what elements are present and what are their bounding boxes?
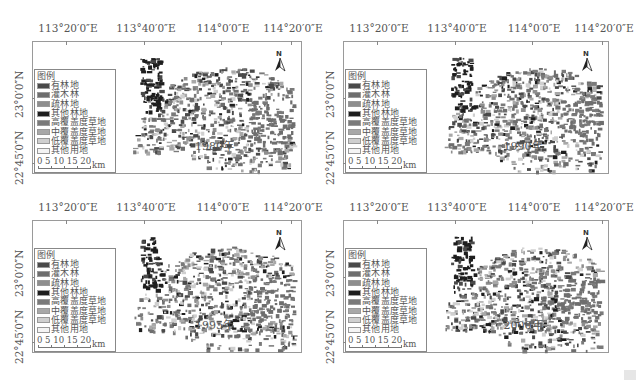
legend-swatch	[37, 299, 50, 305]
map-frame: 图例 有林地灌木林疏林地其他林地高覆盖度草地中覆盖度草地低覆盖度草地其他用地 0…	[32, 41, 302, 174]
north-arrow: N	[580, 229, 594, 251]
legend-swatch	[37, 290, 50, 296]
longitude-label: 113°40′0″E	[427, 201, 486, 213]
latitude-label: 23°0′0″N	[13, 250, 25, 297]
scale-bar: 0 5 10 15 20 km	[348, 335, 424, 350]
year-label: 1990年	[504, 137, 543, 153]
longitude-labels: 113°20′0″E 113°40′0″E 114°0′0″E 114°20′0…	[311, 22, 630, 36]
scale-numbers: 0 5 10 15 20	[37, 156, 91, 166]
legend-swatch	[348, 148, 361, 154]
legend-item: 其他用地	[37, 146, 113, 155]
map-frame: 图例 有林地灌木林疏林地其他林地高覆盖度草地中覆盖度草地低覆盖度草地其他用地 0…	[343, 41, 609, 174]
legend-swatch	[37, 101, 50, 107]
longitude-label: 113°20′0″E	[38, 22, 97, 34]
latitude-label: 22°45′0″N	[324, 310, 336, 364]
scale-bar: 0 5 10 15 20 km	[37, 335, 113, 350]
year-label: 1995年	[195, 316, 234, 332]
corner-mark	[624, 370, 636, 380]
longitude-label: 114°0′0″E	[508, 201, 561, 213]
legend-swatch	[37, 280, 50, 286]
legend-item: 其他用地	[348, 146, 424, 155]
map-legend: 图例 有林地灌木林疏林地其他林地高覆盖度草地中覆盖度草地低覆盖度草地其他用地 0…	[34, 69, 116, 173]
legend-swatch	[37, 129, 50, 135]
longitude-label: 113°40′0″E	[116, 22, 175, 34]
legend-swatch	[37, 317, 50, 323]
north-arrow-icon	[273, 229, 287, 251]
legend-swatch	[348, 111, 361, 117]
legend-swatch	[348, 308, 361, 314]
latitude-label: 23°0′0″N	[324, 250, 336, 297]
longitude-labels: 113°20′0″E 113°40′0″E 114°0′0″E 114°20′0…	[0, 22, 319, 36]
longitude-label: 114°0′0″E	[197, 22, 250, 34]
map-legend: 图例 有林地灌木林疏林地其他林地高覆盖度草地中覆盖度草地低覆盖度草地其他用地 0…	[345, 69, 427, 173]
map-frame: 图例 有林地灌木林疏林地其他林地高覆盖度草地中覆盖度草地低覆盖度草地其他用地 0…	[343, 220, 609, 353]
legend-swatch	[37, 138, 50, 144]
scale-unit: km	[403, 339, 416, 349]
north-arrow-icon	[580, 50, 594, 72]
longitude-labels: 113°20′0″E 113°40′0″E 114°0′0″E 114°20′0…	[0, 201, 319, 215]
legend-swatch	[348, 262, 361, 268]
longitude-label: 113°20′0″E	[349, 201, 408, 213]
legend-swatch	[348, 271, 361, 277]
scale-bar: 0 5 10 15 20 km	[37, 156, 113, 171]
legend-swatch	[348, 280, 361, 286]
legend-swatch	[37, 83, 50, 89]
legend-label: 其他用地	[362, 146, 399, 155]
legend-item: 其他用地	[37, 325, 113, 334]
scale-numbers: 0 5 10 15 20	[37, 335, 91, 345]
longitude-label: 114°0′0″E	[197, 201, 250, 213]
legend-swatch	[37, 120, 50, 126]
longitude-label: 113°40′0″E	[427, 22, 486, 34]
map-legend: 图例 有林地灌木林疏林地其他林地高覆盖度草地中覆盖度草地低覆盖度草地其他用地 0…	[345, 248, 427, 352]
legend-swatch	[348, 299, 361, 305]
legend-swatch	[37, 308, 50, 314]
map-frame: 图例 有林地灌木林疏林地其他林地高覆盖度草地中覆盖度草地低覆盖度草地其他用地 0…	[32, 220, 302, 353]
year-label: 1980年	[195, 137, 234, 153]
north-arrow: N	[273, 229, 287, 251]
scale-numbers: 0 5 10 15 20	[348, 156, 402, 166]
legend-swatch	[348, 129, 361, 135]
map-legend: 图例 有林地灌木林疏林地其他林地高覆盖度草地中覆盖度草地低覆盖度草地其他用地 0…	[34, 248, 116, 352]
longitude-label: 113°40′0″E	[116, 201, 175, 213]
legend-label: 高覆盖度草地	[51, 118, 107, 127]
latitude-label: 22°45′0″N	[13, 131, 25, 185]
legend-label: 高覆盖度草地	[362, 297, 418, 306]
scale-bar: 0 5 10 15 20 km	[348, 156, 424, 171]
latitude-label: 22°45′0″N	[324, 131, 336, 185]
longitude-label: 113°20′0″E	[38, 201, 97, 213]
legend-swatch	[348, 92, 361, 98]
legend-label: 其他用地	[51, 146, 88, 155]
legend-swatch	[348, 317, 361, 323]
legend-swatch	[37, 111, 50, 117]
legend-swatch	[37, 92, 50, 98]
legend-swatch	[348, 120, 361, 126]
legend-swatch	[37, 271, 50, 277]
scale-numbers: 0 5 10 15 20	[348, 335, 402, 345]
legend-label: 其他用地	[362, 325, 399, 334]
legend-swatch	[348, 83, 361, 89]
legend-swatch	[37, 148, 50, 154]
legend-label: 其他用地	[51, 325, 88, 334]
map-panel-1995: 113°20′0″E 113°40′0″E 114°0′0″E 114°20′0…	[0, 179, 319, 370]
scale-unit: km	[92, 339, 105, 349]
north-arrow-icon	[273, 50, 287, 72]
latitude-label: 23°0′0″N	[13, 71, 25, 118]
legend-swatch	[348, 101, 361, 107]
scale-unit: km	[403, 160, 416, 170]
legend-swatch	[348, 327, 361, 333]
legend-item: 其他用地	[348, 325, 424, 334]
map-panel-1980: 113°20′0″E 113°40′0″E 114°0′0″E 114°20′0…	[0, 0, 319, 191]
north-arrow: N	[273, 50, 287, 72]
longitude-label: 113°20′0″E	[349, 22, 408, 34]
latitude-label: 23°0′0″N	[324, 71, 336, 118]
legend-label: 高覆盖度草地	[362, 118, 418, 127]
north-arrow: N	[580, 50, 594, 72]
legend-swatch	[348, 138, 361, 144]
longitude-label: 114°20′0″E	[574, 22, 633, 34]
map-panel-2000: 113°20′0″E 113°40′0″E 114°0′0″E 114°20′0…	[311, 179, 630, 370]
legend-swatch	[348, 290, 361, 296]
legend-label: 高覆盖度草地	[51, 297, 107, 306]
legend-swatch	[37, 262, 50, 268]
year-label: 2000年	[504, 316, 543, 332]
north-arrow-icon	[580, 229, 594, 251]
